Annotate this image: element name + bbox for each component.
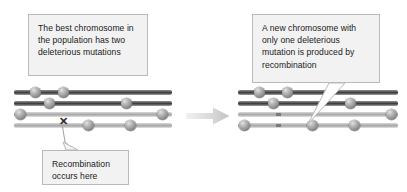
chromosome-line-4 bbox=[238, 123, 398, 128]
mutation-marker bbox=[349, 120, 360, 131]
mutation-marker bbox=[254, 87, 265, 98]
mutation-marker bbox=[386, 109, 397, 120]
recombination-x-icon: ✕ bbox=[58, 116, 69, 127]
mutation-marker bbox=[268, 98, 279, 109]
recombination-break-tick bbox=[276, 124, 281, 127]
recombination-break-tick bbox=[276, 113, 281, 116]
mutation-marker bbox=[282, 87, 293, 98]
chromosome-panel-before: ✕ bbox=[14, 90, 174, 135]
mutation-marker bbox=[125, 120, 136, 131]
mutation-marker bbox=[307, 120, 318, 131]
chromosome-line-3 bbox=[238, 112, 398, 117]
chromosome-panel-after bbox=[238, 90, 404, 135]
callout-recombination-point: Recombination occurs here bbox=[42, 150, 129, 185]
transition-arrow-icon bbox=[186, 107, 230, 125]
mutation-marker bbox=[121, 98, 132, 109]
chromosome-line-2 bbox=[14, 101, 172, 106]
callout-best-chromosome: The best chromosome in the population ha… bbox=[28, 14, 148, 76]
chromosome-line-3 bbox=[14, 112, 172, 117]
callout-new-chromosome: A new chromosome with only one deleterio… bbox=[252, 14, 380, 83]
mutation-marker bbox=[239, 120, 250, 131]
chromosome-line-2 bbox=[238, 101, 398, 106]
mutation-marker bbox=[44, 98, 55, 109]
mutation-marker bbox=[15, 109, 26, 120]
mutation-marker bbox=[345, 98, 356, 109]
mutation-marker bbox=[157, 109, 168, 120]
mutation-marker bbox=[30, 87, 41, 98]
diagram-canvas: The best chromosome in the population ha… bbox=[0, 0, 407, 192]
leader-tail-recombination bbox=[63, 142, 78, 150]
mutation-marker bbox=[83, 120, 94, 131]
mutation-marker bbox=[58, 87, 69, 98]
